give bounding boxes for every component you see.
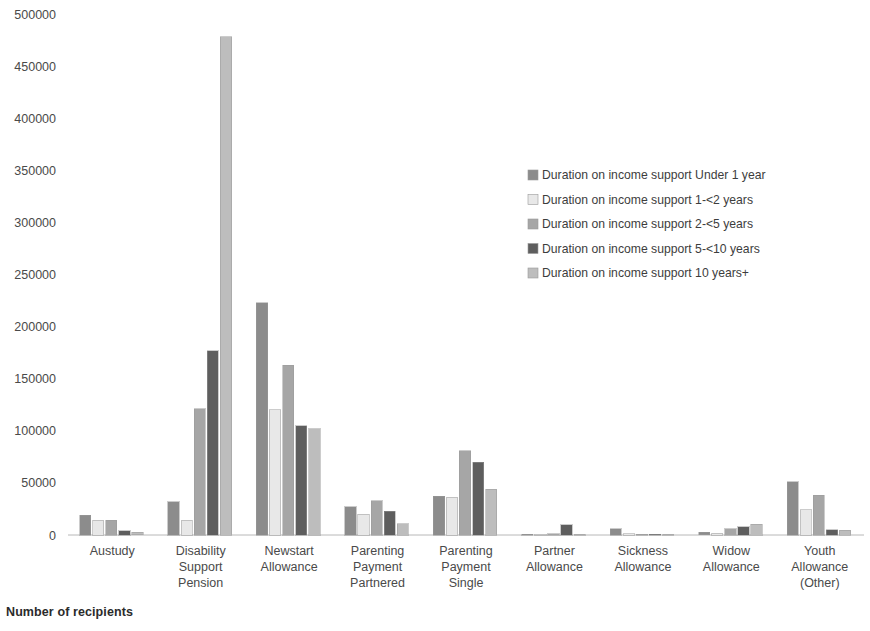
y-axis-tick-label: 500000 (14, 8, 56, 22)
legend-item-label: Duration on income support 2-<5 years (542, 217, 753, 231)
legend-item-label: Duration on income support 1-<2 years (542, 193, 753, 207)
y-axis-tick-label: 150000 (14, 372, 56, 386)
x-axis-category-label: Partnered (350, 576, 405, 590)
bar (738, 527, 749, 535)
bar (663, 534, 674, 535)
y-axis-tick-label: 350000 (14, 164, 56, 178)
bar (194, 409, 205, 535)
bar (712, 533, 723, 535)
bar (269, 410, 280, 535)
legend-swatch (528, 219, 538, 229)
bar (371, 501, 382, 535)
bar (384, 511, 395, 535)
bar (535, 534, 546, 535)
x-axis-category-label: Partner (534, 544, 575, 558)
legend-swatch (528, 195, 538, 205)
legend-item-label: Duration on income support 5-<10 years (542, 242, 760, 256)
bar (800, 510, 811, 535)
bar (106, 520, 117, 535)
x-axis-category-label: Austudy (90, 544, 136, 558)
bar (649, 534, 660, 535)
x-axis-category-label: Youth (804, 544, 836, 558)
bar (93, 520, 104, 535)
x-axis-category-label: Sickness (618, 544, 668, 558)
legend-swatch (528, 268, 538, 278)
x-axis-category-label: Pension (178, 576, 223, 590)
bar (522, 534, 533, 535)
bar (220, 37, 231, 535)
x-axis-category-label: Allowance (261, 560, 318, 574)
y-axis-tick-label: 100000 (14, 424, 56, 438)
bar (623, 534, 634, 535)
bar (699, 532, 710, 535)
y-axis-tick-label: 200000 (14, 320, 56, 334)
bar (283, 365, 294, 535)
y-axis-tick-label: 300000 (14, 216, 56, 230)
bar (168, 502, 179, 535)
x-axis-category-label: Payment (353, 560, 403, 574)
bar (433, 496, 444, 535)
chart-legend: Duration on income support Under 1 yearD… (528, 168, 766, 280)
x-axis-category-label: Widow (713, 544, 751, 558)
x-axis-category-label: Allowance (703, 560, 760, 574)
bar (309, 429, 320, 535)
legend-swatch (528, 170, 538, 180)
bar (826, 530, 837, 535)
bar (610, 529, 621, 535)
chart-canvas: 0500001000001500002000002500003000003500… (0, 0, 870, 600)
bar-chart: 0500001000001500002000002500003000003500… (0, 0, 870, 631)
x-axis-category-label: Disability (176, 544, 227, 558)
bar (207, 351, 218, 535)
bar (725, 529, 736, 535)
bar (636, 534, 647, 535)
x-axis-category-label: Allowance (791, 560, 848, 574)
bar (119, 531, 130, 535)
bar (839, 530, 850, 535)
chart-caption: Number of recipients (6, 605, 133, 619)
bar (787, 482, 798, 535)
x-axis-category-label: Allowance (614, 560, 671, 574)
bar (80, 515, 91, 535)
bar (486, 489, 497, 535)
bar (574, 534, 585, 535)
bar (256, 303, 267, 535)
bar (132, 532, 143, 535)
y-axis-tick-label: 400000 (14, 112, 56, 126)
bar (345, 507, 356, 535)
y-axis-tick-label: 450000 (14, 60, 56, 74)
bar (813, 495, 824, 535)
bar (397, 524, 408, 535)
bar (358, 514, 369, 535)
x-axis-category-label: Parenting (439, 544, 493, 558)
x-axis-category-label: (Other) (800, 576, 840, 590)
x-axis-category-label: Payment (441, 560, 491, 574)
x-axis-category-label: Support (179, 560, 223, 574)
legend-item-label: Duration on income support 10 years+ (542, 266, 749, 280)
legend-swatch (528, 244, 538, 254)
y-axis-tick-label: 250000 (14, 268, 56, 282)
bar (296, 426, 307, 535)
bar (561, 525, 572, 535)
bars-layer (80, 37, 851, 535)
x-axis-category-label: Newstart (264, 544, 314, 558)
y-axis-tick-label: 0 (49, 529, 56, 543)
x-axis: AustudyDisabilitySupportPensionNewstartA… (90, 544, 849, 590)
bar (548, 534, 559, 535)
bar (181, 520, 192, 535)
x-axis-category-label: Single (449, 576, 484, 590)
bar (459, 451, 470, 535)
y-axis-tick-label: 50000 (21, 476, 56, 490)
x-axis-category-label: Parenting (351, 544, 405, 558)
legend-item-label: Duration on income support Under 1 year (542, 168, 766, 182)
bar (473, 462, 484, 535)
bar (446, 497, 457, 535)
bar (751, 524, 762, 535)
x-axis-category-label: Allowance (526, 560, 583, 574)
